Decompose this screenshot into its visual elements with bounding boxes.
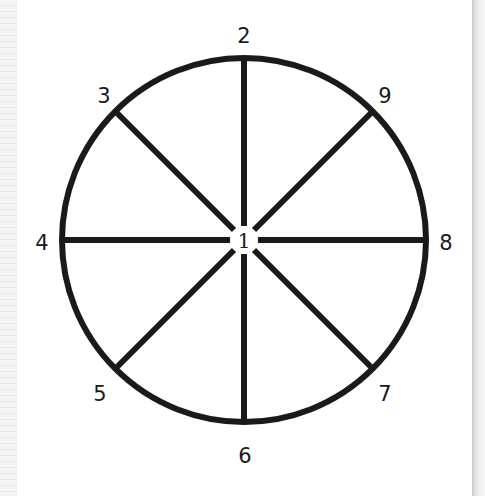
spoke-top-right: [254, 111, 373, 230]
label-top-right: 9: [378, 86, 391, 107]
label-bottom: 6: [238, 446, 251, 467]
spoke-bottom-left: [115, 250, 234, 369]
label-right: 8: [439, 233, 452, 254]
label-bottom-right: 7: [378, 384, 391, 405]
label-top: 2: [237, 26, 250, 47]
spoke-top-left: [115, 111, 234, 230]
label-bottom-left: 5: [93, 384, 106, 405]
label-left: 4: [35, 233, 48, 254]
label-top-left: 3: [97, 86, 110, 107]
center-label: 1: [238, 231, 251, 251]
spoke-bottom-right: [254, 250, 373, 369]
